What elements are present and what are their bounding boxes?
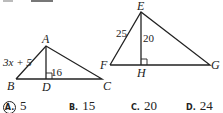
choice-letter: D. — [186, 103, 196, 112]
choice-a[interactable]: A. 5 — [3, 98, 27, 112]
altitude-ad-label: 16 — [51, 67, 62, 78]
choice-letter-circled: A. — [3, 101, 16, 113]
choice-value: 15 — [82, 98, 95, 113]
choice-c[interactable]: C. 20 — [131, 98, 157, 112]
similar-triangles-figure — [0, 0, 223, 113]
side-ef-label: 25 — [116, 28, 127, 39]
choice-b[interactable]: B. 15 — [69, 98, 95, 112]
choice-value: 20 — [144, 98, 157, 113]
vertex-label-c: C — [103, 80, 111, 92]
vertex-label-h: H — [137, 67, 146, 79]
choice-letter: B. — [69, 103, 78, 112]
choice-d[interactable]: D. 24 — [186, 98, 213, 112]
choice-value: 24 — [200, 98, 213, 113]
vertex-label-g: G — [211, 59, 220, 71]
choice-value: 5 — [20, 98, 27, 113]
choice-letter: C. — [131, 103, 140, 112]
vertex-label-e: E — [137, 0, 144, 12]
vertex-label-d: D — [42, 81, 51, 93]
side-ab-label: 3x + 5 — [3, 56, 32, 68]
altitude-eh-label: 20 — [143, 33, 154, 44]
vertex-label-f: F — [100, 59, 107, 71]
vertex-label-b: B — [7, 80, 14, 92]
vertex-label-a: A — [42, 33, 49, 45]
